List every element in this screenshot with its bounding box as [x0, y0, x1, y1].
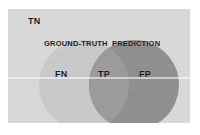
venn-circles — [8, 9, 190, 123]
region-label-fn: FN — [55, 70, 67, 79]
region-label-fp: FP — [139, 70, 151, 79]
region-label-tn: TN — [28, 17, 40, 26]
region-label-tp: TP — [98, 70, 110, 79]
set-label-ground-truth: GROUND-TRUTH — [44, 40, 108, 48]
diagram-panel — [8, 9, 190, 123]
set-label-prediction: PREDICTION — [112, 40, 160, 48]
venn-diagram-figure: TN GROUND-TRUTH PREDICTION FN TP FP — [0, 0, 200, 135]
